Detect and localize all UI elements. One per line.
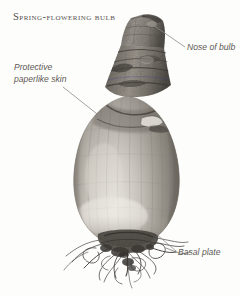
callout-label-basal-plate: Basal plate <box>178 247 221 259</box>
callout-label-paperlike-skin-line2: paperlike skin <box>14 74 67 86</box>
bulb-body <box>64 94 184 250</box>
callout-label-paperlike-skin: Protective paperlike skin <box>14 62 67 85</box>
bulb-neck <box>105 45 172 97</box>
bulb-nose <box>121 14 165 49</box>
callout-label-nose-of-bulb: Nose of bulb <box>187 42 235 54</box>
figure-panel: Spring-flowering bulb Nose of bulb Prote… <box>0 0 240 296</box>
basal-plate-and-roots <box>64 230 190 288</box>
page-title: Spring-flowering bulb <box>13 11 115 22</box>
callout-label-paperlike-skin-line1: Protective <box>14 62 67 74</box>
